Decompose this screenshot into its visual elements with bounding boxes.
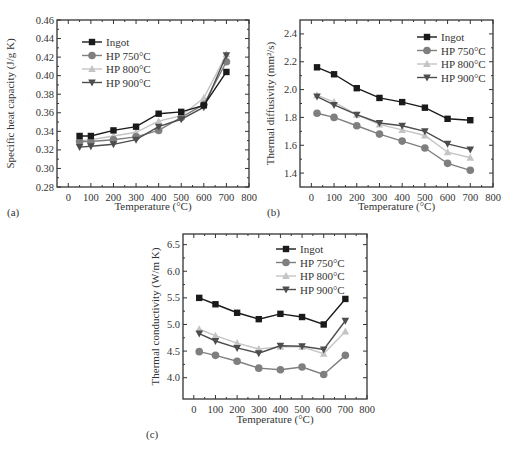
x-axis-label: Temperature (°C) [236,413,314,426]
data-point-marker [212,352,220,360]
data-point-marker [299,314,305,320]
data-point-marker [277,366,285,374]
legend-item: HP 800°C [276,270,345,282]
data-point-marker [255,364,263,372]
legend-label: Ingot [300,243,323,255]
data-point-marker [342,327,350,334]
data-point-marker [212,301,218,307]
data-point-marker [320,371,328,379]
data-point-marker [233,357,241,365]
x-tick-label: 600 [316,404,332,415]
chart-thermal-conductivity: 0100200300400500600700800Temperature (°C… [0,0,514,457]
legend-item: Ingot [276,243,323,255]
x-tick-label: 800 [359,404,375,415]
data-point-marker [195,348,203,356]
y-tick-label: 5.5 [167,292,180,303]
series-hp-750-c [195,348,349,378]
data-point-marker [342,296,348,302]
legend-item: HP 750°C [276,257,345,269]
data-point-marker [256,316,262,322]
legend-label: HP 750°C [300,257,345,269]
series-hp-800-c [195,325,349,356]
panel-label-c: (c) [146,428,158,440]
data-point-marker [255,350,263,357]
y-tick-label: 4.5 [167,346,180,357]
legend-label: HP 900°C [300,284,345,296]
x-tick-label: 700 [337,404,353,415]
data-point-marker [342,352,350,360]
y-tick-label: 4.0 [167,372,180,383]
x-tick-label: 100 [208,404,224,415]
y-tick-label: 5.0 [167,319,180,330]
data-point-marker [298,363,306,371]
legend-item: HP 900°C [276,284,345,296]
legend-marker-icon [283,246,289,252]
data-point-marker [196,295,202,301]
series-ingot [196,295,349,328]
data-point-marker [234,310,240,316]
y-axis-label: Thermal conductivity (W/m K) [149,247,162,385]
legend-label: HP 800°C [300,270,345,282]
y-tick-label: 6.0 [167,266,180,277]
data-point-marker [277,311,283,317]
data-point-marker [321,321,327,327]
chart-legend: IngotHP 750°CHP 800°CHP 900°C [276,243,345,296]
y-tick-label: 6.5 [167,239,180,250]
chart-panel-c: 0100200300400500600700800Temperature (°C… [0,0,514,457]
x-tick-label: 0 [191,404,196,415]
legend-marker-icon [282,259,290,267]
